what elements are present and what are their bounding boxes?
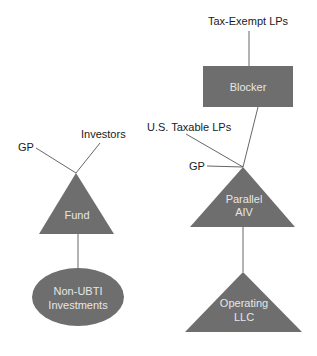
label-gp-left: GP: [18, 141, 34, 153]
structure-diagram: GP Investors Fund Non-UBTI Investments T…: [0, 0, 317, 356]
label-tax-exempt-lps: Tax-Exempt LPs: [208, 15, 289, 27]
fund-label: Fund: [64, 209, 89, 221]
edge-gp-to-fund: [36, 148, 76, 173]
fund-triangle: [39, 173, 114, 234]
investments-label-line1: Non-UBTI: [54, 285, 103, 297]
blocker-label: Blocker: [230, 81, 267, 93]
label-us-taxable-lps: U.S. Taxable LPs: [147, 121, 232, 133]
edge-blocker-to-aiv: [243, 107, 258, 167]
edge-gp-to-aiv: [207, 166, 243, 167]
parallel-aiv-label-line2: AIV: [235, 206, 253, 218]
label-gp-right: GP: [189, 160, 205, 172]
operating-llc-label-line1: Operating: [220, 297, 268, 309]
parallel-aiv-label-line1: Parallel: [226, 193, 263, 205]
investments-label-line2: Investments: [48, 299, 108, 311]
edge-investors-to-fund: [76, 143, 100, 173]
operating-llc-label-line2: LLC: [234, 311, 254, 323]
investments-ellipse: [32, 268, 124, 326]
label-investors: Investors: [81, 128, 126, 140]
